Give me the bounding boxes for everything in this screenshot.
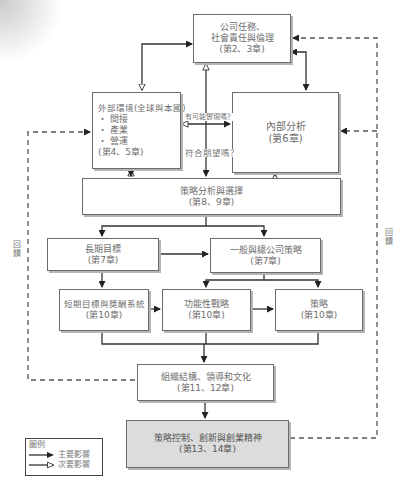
policies-box: 策略 (第10章) <box>275 289 363 331</box>
feasible-question-label: 有可能實現嗎？ <box>185 113 234 121</box>
short-term-objectives-box: 短期目標與獎酬系統 (第10章) <box>59 289 149 331</box>
internal-title: 內部分析 <box>266 121 306 133</box>
long-term-title: 長期目標 <box>85 244 121 255</box>
functional-tactics-box: 功能性戰略 (第10章) <box>162 289 251 331</box>
desired-question-label: 符合期望嗎？ <box>185 149 239 157</box>
legend-primary-label: 主要影響 <box>58 450 90 460</box>
mission-line-2: 社會責任與倫理 <box>211 33 274 44</box>
corporate-strategy-box: 一般與總公司策略 (第7章) <box>210 238 321 273</box>
mission-line-1: 公司任務、 <box>220 22 265 33</box>
strategy-analysis-box: 策略分析與選擇 (第8、9章) <box>82 178 341 215</box>
arrow-merge-organization <box>102 331 318 344</box>
external-bullet-industry: ・ 產業 <box>98 125 128 136</box>
strategy-analysis-title: 策略分析與選擇 <box>180 186 243 197</box>
feedback-right-char-1: 回 <box>384 228 393 237</box>
legend-primary-row: 主要影響 <box>29 450 99 460</box>
corporate-strategy-chapter: (第7章) <box>250 256 281 267</box>
corporate-strategy-title: 一般與總公司策略 <box>230 245 302 256</box>
feedback-left-char-2: 饋 <box>12 249 21 258</box>
feedback-right-char-2: 饋 <box>384 237 393 246</box>
legend-title: 圖例 <box>29 440 99 450</box>
long-term-objectives-box: 長期目標 (第7章) <box>47 238 159 271</box>
arrow-analysis-split <box>102 215 206 236</box>
external-bullet-remote: ・ 間接 <box>98 114 128 125</box>
legend-secondary-row: 次要影響 <box>29 460 99 470</box>
arrow-mission-external <box>142 44 192 90</box>
policies-title: 策略 <box>310 299 328 310</box>
hollow-arrow-icon <box>29 461 55 469</box>
mission-chapter: (第2、3章) <box>219 44 264 55</box>
external-environment-box: 外部環境(全球與本國) ・ 間接 ・ 產業 ・ 營運 (第4、5章) <box>92 92 181 169</box>
short-term-chapter: (第10章) <box>86 310 122 321</box>
control-title: 策略控制、創新與創業精神 <box>154 433 262 444</box>
short-term-title: 短期目標與獎酬系統 <box>64 299 145 310</box>
mission-box: 公司任務、 社會責任與倫理 (第2、3章) <box>193 14 291 63</box>
external-chapter: (第4、5章) <box>98 147 143 158</box>
organization-chapter: (第11、12章) <box>177 383 234 394</box>
internal-chapter: (第6章) <box>268 133 302 145</box>
organization-title: 組織結構、領導和文化 <box>161 372 251 383</box>
legend: 圖例 主要影響 次要影響 <box>25 438 103 476</box>
external-bullet-operating: ・ 營運 <box>98 136 128 147</box>
policies-chapter: (第10章) <box>301 310 337 321</box>
functional-chapter: (第10章) <box>188 310 224 321</box>
long-term-chapter: (第7章) <box>88 255 119 266</box>
external-title: 外部環境(全球與本國) <box>98 103 186 114</box>
feedback-left-char-1: 回 <box>12 240 21 249</box>
feedback-right-label: 回 饋 <box>384 228 393 246</box>
strategy-analysis-chapter: (第8、9章) <box>189 197 234 208</box>
control-chapter: (第13、14章) <box>179 444 236 455</box>
legend-secondary-label: 次要影響 <box>58 460 90 470</box>
organization-box: 組織結構、領導和文化 (第11、12章) <box>137 364 274 401</box>
arrow-corporate-split <box>206 273 264 287</box>
functional-title: 功能性戰略 <box>184 299 229 310</box>
arrow-mission-internal <box>291 52 306 90</box>
feedback-left-label: 回 饋 <box>12 240 21 258</box>
strategic-control-box: 策略控制、創新與創業精神 (第13、14章) <box>126 420 289 468</box>
internal-analysis-box: 內部分析 (第6章) <box>232 92 339 173</box>
solid-arrow-icon <box>29 451 55 459</box>
